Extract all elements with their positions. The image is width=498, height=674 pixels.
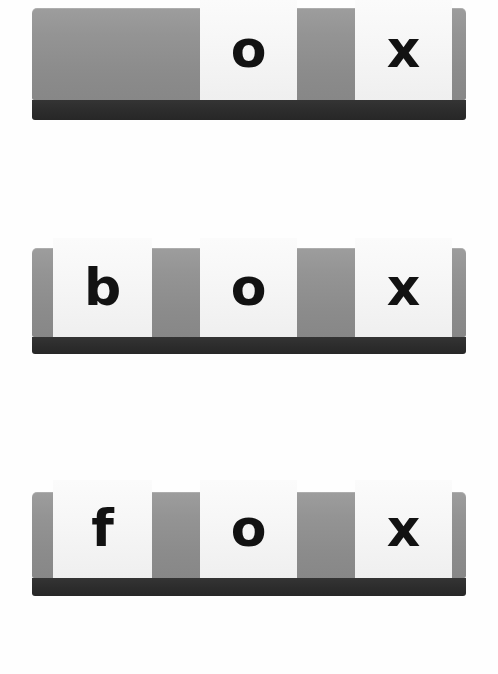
letter-tile-label: o xyxy=(231,23,267,75)
letter-tile-x[interactable]: x xyxy=(355,0,452,100)
letter-tile-label: f xyxy=(91,502,114,554)
letter-tile-label: x xyxy=(387,502,421,554)
letter-tile-o[interactable]: o xyxy=(200,480,297,578)
letter-tile-x[interactable]: x xyxy=(355,480,452,578)
letter-tile-f[interactable]: f xyxy=(53,480,152,578)
letter-tile-b[interactable]: b xyxy=(53,238,152,337)
letter-tile-label: b xyxy=(84,261,121,313)
letter-tile-label: o xyxy=(231,261,267,313)
board-base-1 xyxy=(32,100,466,120)
letter-tile-label: o xyxy=(231,502,267,554)
letter-tile-label: x xyxy=(387,23,421,75)
letter-tile-o[interactable]: o xyxy=(200,0,297,100)
board-base-2 xyxy=(32,337,466,354)
tile-activity-canvas: o x b o x f o x xyxy=(0,0,498,674)
letter-tile-label: x xyxy=(387,261,421,313)
letter-tile-x[interactable]: x xyxy=(355,238,452,337)
letter-tile-o[interactable]: o xyxy=(200,238,297,337)
board-base-3 xyxy=(32,578,466,596)
